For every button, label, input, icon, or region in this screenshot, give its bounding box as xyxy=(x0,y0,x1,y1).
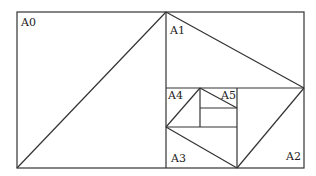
label-a4: A4 xyxy=(167,89,183,102)
label-a0: A0 xyxy=(20,16,36,29)
label-a5: A5 xyxy=(220,89,236,102)
diagonal-a1 xyxy=(166,12,304,88)
label-a3: A3 xyxy=(170,152,186,165)
outer-rectangle-a0 xyxy=(17,12,304,168)
diagonal-a0 xyxy=(17,12,166,168)
paper-size-diagram: A0 A1 A2 A3 A4 A5 xyxy=(0,0,316,176)
label-a2: A2 xyxy=(285,150,301,163)
label-a1: A1 xyxy=(169,24,185,37)
